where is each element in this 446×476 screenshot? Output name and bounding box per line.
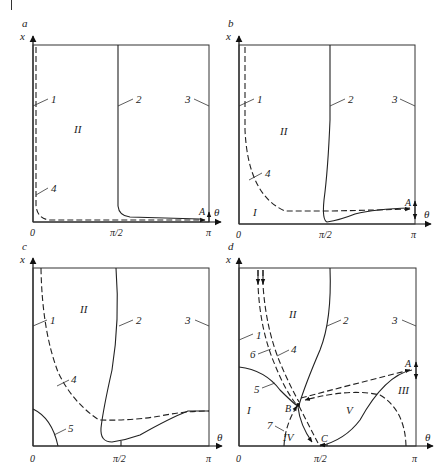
curve-2	[118, 45, 200, 219]
x-tick-0: 0	[236, 453, 241, 464]
leader-2	[119, 320, 133, 326]
panel-label: d	[228, 240, 234, 252]
y-axis-label: x	[19, 253, 25, 265]
x-tick-pi: π	[411, 229, 417, 240]
curve-2	[323, 45, 410, 222]
curve-label-6: 6	[250, 348, 256, 360]
leader-2	[327, 320, 341, 326]
curve-label-4: 4	[265, 167, 271, 179]
x-axis-label: θ	[214, 206, 220, 218]
curve-label-4: 4	[51, 182, 57, 194]
plot-frame	[239, 268, 416, 446]
curve-label-3: 3	[184, 314, 191, 326]
leader-1	[33, 99, 48, 106]
curve-label-1: 1	[256, 329, 262, 341]
curve-label-2: 2	[136, 93, 142, 105]
y-axis-label: x	[225, 30, 231, 42]
panel-label: b	[228, 17, 234, 29]
leader-4	[36, 188, 48, 195]
leader-3	[400, 99, 415, 106]
panel-d: d x	[225, 240, 433, 464]
region-label-II: II	[79, 303, 89, 315]
curve-label-1: 1	[257, 93, 263, 105]
x-tick-pi-half: π/2	[314, 453, 327, 464]
y-axis-label: x	[225, 253, 231, 265]
leader-6	[258, 349, 271, 354]
x-tick-pi-half: π/2	[113, 453, 126, 464]
panel-label: a	[22, 17, 28, 29]
curve-label-3: 3	[391, 314, 398, 326]
curve-4	[41, 268, 209, 420]
x-tick-pi: π	[206, 227, 212, 238]
y-axis-label: x	[19, 30, 25, 42]
leader-4	[57, 380, 69, 386]
x-tick-0: 0	[30, 227, 35, 238]
curve-4	[36, 47, 205, 220]
point-label-A: A	[198, 206, 206, 217]
panel-a: a x 1 2 3 4 II A θ 0 π/2 π	[19, 17, 221, 238]
curve-label-7: 7	[267, 419, 273, 431]
separatrix-b-c	[298, 407, 312, 442]
curve-2	[299, 268, 330, 405]
leader-3	[195, 320, 209, 326]
region-label-II: II	[279, 125, 289, 137]
region-label-II: II	[73, 123, 83, 135]
panel-label: c	[22, 240, 27, 252]
curve-label-2: 2	[348, 93, 354, 105]
curve-label-1: 1	[50, 314, 56, 326]
curve-label-1: 1	[51, 93, 57, 105]
point-label-A: A	[404, 358, 412, 369]
curve-label-5: 5	[254, 383, 260, 395]
leader-2	[330, 99, 345, 106]
leader-5	[54, 429, 66, 435]
x-tick-0: 0	[236, 229, 241, 240]
curve-label-3: 3	[184, 93, 191, 105]
leader-1	[239, 99, 254, 106]
trajectory-b-a-upper	[301, 370, 410, 398]
curve-label-4: 4	[291, 343, 297, 355]
leader-3	[194, 99, 209, 106]
x-tick-pi: π	[206, 453, 212, 464]
curve-label-4: 4	[71, 373, 77, 385]
curve-4	[245, 47, 410, 211]
x-tick-pi-half: π/2	[319, 229, 332, 240]
curve-4	[263, 270, 299, 402]
curve-label-5: 5	[68, 422, 74, 434]
region-label-II: II	[288, 308, 298, 320]
x-tick-0: 0	[30, 453, 35, 464]
point-label-B: B	[285, 403, 291, 414]
x-axis-label: θ	[217, 431, 223, 443]
leader-5	[262, 383, 275, 388]
leader-4	[249, 173, 262, 180]
region-label-III: III	[397, 384, 410, 396]
leader-4	[277, 350, 289, 356]
region-label-V: V	[346, 404, 354, 416]
point-label-A: A	[404, 197, 412, 208]
region-label-I: I	[252, 206, 258, 218]
region-label-I: I	[246, 404, 252, 416]
leader-1	[239, 334, 253, 340]
curve-label-2: 2	[343, 314, 349, 326]
curve-5	[33, 409, 58, 446]
panel-b: b x 1 2 3 4 II I A θ 0 π/2 π	[225, 17, 431, 240]
point-label-C: C	[321, 433, 328, 444]
leader-3	[402, 320, 416, 326]
figure: a x 1 2 3 4 II A θ 0 π/2 π b x	[0, 0, 446, 476]
curve-label-2: 2	[136, 314, 142, 326]
region-label-IV: IV	[282, 431, 295, 443]
curve-2	[101, 268, 209, 442]
plot-frame	[33, 45, 209, 222]
x-tick-pi-half: π/2	[110, 227, 123, 238]
curve-label-3: 3	[391, 93, 398, 105]
plot-frame	[33, 268, 209, 446]
x-axis-label: θ	[425, 431, 431, 443]
leader-2	[118, 99, 133, 106]
x-tick-pi: π	[412, 453, 418, 464]
panel-c: c x 1 2 3 4 5 II θ 0 π/2 π	[19, 240, 223, 464]
point-b	[296, 403, 300, 407]
x-axis-label: θ	[424, 208, 430, 220]
